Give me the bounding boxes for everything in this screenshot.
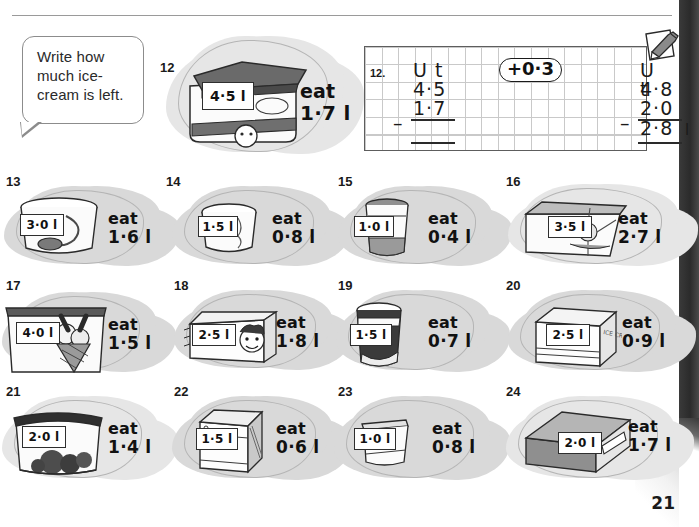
- problem-number: 21: [6, 384, 20, 399]
- amount-label: 4·5 l: [202, 82, 254, 110]
- eat-word: eat: [628, 418, 671, 436]
- eat-word: eat: [108, 420, 151, 438]
- problem-14: 14 1·5 l eat 0·8 l: [164, 174, 336, 278]
- eat-label: eat 0·7 l: [428, 314, 471, 351]
- eat-value: 0·4 l: [428, 228, 471, 247]
- problem-24: 24 2·0 l eat 1·7 l: [504, 384, 684, 494]
- eat-value: 1·4 l: [108, 438, 151, 457]
- page-number: 21: [651, 493, 675, 513]
- amount-label: 1·0 l: [354, 428, 396, 450]
- right-answer-underline: [638, 142, 682, 144]
- eat-value: 0·6 l: [276, 438, 319, 457]
- amount-label: 3·0 l: [20, 214, 64, 236]
- right-subtrahend: 2·0: [640, 99, 673, 118]
- pencil-and-paper-icon: [640, 26, 686, 66]
- problem-number: 13: [6, 174, 20, 189]
- eat-value: 2·7 l: [618, 228, 661, 247]
- amount-label: 1·5 l: [198, 216, 238, 237]
- instruction-bubble: Write how much ice-cream is left.: [22, 36, 144, 124]
- problem-number: 22: [174, 384, 188, 399]
- right-answer-unit: l: [685, 121, 690, 140]
- header-rule: [12, 15, 672, 16]
- instruction-bubble-tail: [20, 122, 42, 138]
- eat-word: eat: [428, 314, 471, 332]
- eat-value: 0·9 l: [622, 332, 665, 351]
- worksheet-page: Write how much ice-cream is left. 12. U …: [0, 0, 699, 527]
- left-operator: –: [393, 112, 403, 134]
- amount-label: 1·5 l: [196, 428, 238, 450]
- problem-15: 15 1·0 l eat 0·4 l: [336, 174, 504, 278]
- eat-value: 1·5 l: [108, 334, 151, 353]
- eat-word: eat: [108, 316, 151, 334]
- problem-18: 18 2·5 l eat 1·8 l: [172, 280, 340, 384]
- problem-13: 13 3·0 l eat 1·6 l: [4, 174, 169, 278]
- eat-label: eat 2·7 l: [618, 210, 661, 247]
- problem-number: 17: [6, 278, 20, 293]
- eat-value: 1·7 l: [300, 102, 351, 125]
- amount-label: 2·5 l: [546, 324, 590, 346]
- problem-number: 19: [338, 278, 352, 293]
- amount-label: 3·5 l: [548, 216, 592, 238]
- eat-label: eat 0·9 l: [622, 314, 665, 351]
- eat-value: 1·8 l: [276, 332, 319, 351]
- eat-word: eat: [428, 210, 471, 228]
- left-sum-rule-bottom: [411, 142, 455, 144]
- problem-20: 20 ICE CREAM 2·5 l eat 0·9 l: [504, 280, 684, 384]
- problem-12: 12 4·5 l eat 1·7 l: [160, 32, 360, 162]
- amount-label: 2·0 l: [558, 432, 602, 454]
- eat-word: eat: [300, 80, 351, 102]
- eat-label: eat 1·4 l: [108, 420, 151, 457]
- left-sum-rule-top: [411, 119, 455, 121]
- eat-word: eat: [432, 420, 475, 438]
- amount-label: 4·0 l: [16, 322, 60, 344]
- problem-number: 16: [506, 174, 520, 189]
- eat-value: 0·8 l: [432, 438, 475, 457]
- amount-label: 2·0 l: [22, 426, 66, 448]
- eat-label: eat 1·6 l: [108, 210, 151, 247]
- eat-label: eat 1·7 l: [300, 80, 351, 125]
- problem-number: 18: [174, 278, 188, 293]
- eat-word: eat: [618, 210, 661, 228]
- eat-label: eat 0·8 l: [432, 420, 475, 457]
- problem-number: 24: [506, 384, 520, 399]
- problem-number: 14: [166, 174, 180, 189]
- eat-label: eat 1·5 l: [108, 316, 151, 353]
- eat-label: eat 0·8 l: [272, 210, 315, 247]
- eat-value: 1·6 l: [108, 228, 151, 247]
- eat-word: eat: [108, 210, 151, 228]
- eat-label: eat 1·7 l: [628, 418, 671, 455]
- problem-number: 20: [506, 278, 520, 293]
- problem-16: 16 3·5 l eat 2·7 l: [504, 174, 684, 278]
- problem-17: 17 4·0 l eat 1·5 l: [4, 280, 169, 384]
- eat-word: eat: [272, 210, 315, 228]
- problem-21: 21 2·0 l eat 1·4 l: [4, 384, 169, 494]
- problem-22: 22 1·5 l eat 0·6 l: [172, 384, 340, 494]
- amount-label: 1·0 l: [354, 216, 394, 237]
- problem-number: 23: [338, 384, 352, 399]
- problem-23: 23 1·0 l eat 0·8 l: [336, 384, 504, 494]
- amount-label: 1·5 l: [350, 324, 392, 346]
- eat-word: eat: [276, 314, 319, 332]
- problem-19: 19 1·5 l eat 0·7 l: [336, 280, 504, 384]
- worked-example-grid: 12. U t 4·5 – 1·7 +0·3 U t 4·8 – 2·0 2·8…: [364, 46, 647, 151]
- right-operator: –: [620, 112, 630, 134]
- eat-value: 0·7 l: [428, 332, 471, 351]
- problem-number: 12: [160, 60, 174, 75]
- instruction-text: Write how much ice-cream is left.: [37, 47, 141, 104]
- eat-label: eat 0·6 l: [276, 420, 319, 457]
- eat-word: eat: [622, 314, 665, 332]
- eat-word: eat: [276, 420, 319, 438]
- eat-label: eat 0·4 l: [428, 210, 471, 247]
- problem-number: 15: [338, 174, 352, 189]
- left-subtrahend: 1·7: [413, 99, 446, 118]
- eat-label: eat 1·8 l: [276, 314, 319, 351]
- adjustment-pill: +0·3: [499, 58, 562, 82]
- right-answer: 2·8: [640, 119, 673, 138]
- amount-label: 2·5 l: [192, 324, 236, 346]
- worked-example-number: 12.: [370, 67, 385, 79]
- eat-value: 1·7 l: [628, 436, 671, 455]
- eat-value: 0·8 l: [272, 228, 315, 247]
